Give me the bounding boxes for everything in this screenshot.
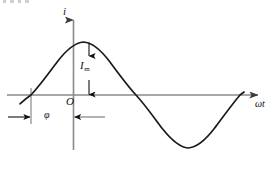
y-axis-label: i xyxy=(63,6,66,17)
origin-label: O xyxy=(66,96,74,107)
phase-angle-label: φ xyxy=(44,110,50,120)
amplitude-subscript: m xyxy=(84,65,89,73)
omega-symbol: ω xyxy=(255,98,262,109)
x-axis-label: ωt xyxy=(255,99,265,109)
amplitude-label: Im xyxy=(80,60,89,71)
time-symbol: t xyxy=(262,98,265,109)
waveform-figure: i Im O φ ωt xyxy=(0,0,275,183)
waveform-canvas xyxy=(0,0,275,183)
